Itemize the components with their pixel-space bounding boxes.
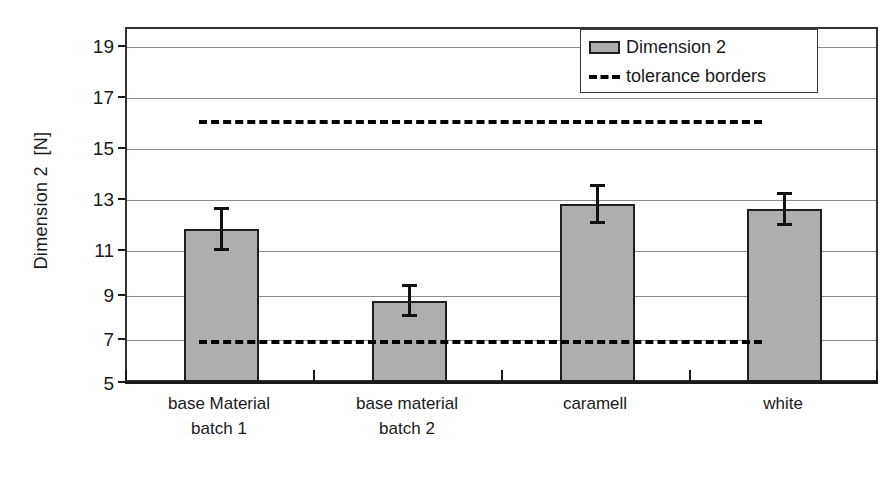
lower-tolerance-border-line bbox=[199, 340, 762, 344]
x-tick-1 bbox=[313, 370, 315, 384]
y-tick-label-13: 13 bbox=[54, 190, 114, 209]
x-category-line-2: batch 1 bbox=[125, 417, 313, 442]
y-axis-tick-labels: 19 17 15 13 11 9 7 5 bbox=[40, 0, 114, 479]
upper-tolerance-border-line bbox=[199, 120, 762, 124]
bar-white[interactable] bbox=[747, 209, 822, 382]
y-tick-label-17: 17 bbox=[54, 88, 114, 107]
legend-entry-tolerance-borders: tolerance borders bbox=[589, 62, 811, 91]
y-tick-label-15: 15 bbox=[54, 139, 114, 158]
y-tick-label-5: 5 bbox=[54, 374, 114, 393]
gridline-13 bbox=[127, 200, 876, 201]
bar-caramell[interactable] bbox=[560, 204, 635, 382]
x-category-label-base-material-batch-1: base Material batch 1 bbox=[125, 392, 313, 441]
x-category-line-2: batch 2 bbox=[313, 417, 501, 442]
x-category-line-1: white bbox=[689, 392, 877, 417]
y-tick-label-9: 9 bbox=[54, 286, 114, 305]
x-category-line-1: base material bbox=[313, 392, 501, 417]
x-category-label-base-material-batch-2: base material batch 2 bbox=[313, 392, 501, 441]
x-category-line-1: caramell bbox=[501, 392, 689, 417]
x-tick-start bbox=[125, 370, 127, 384]
x-category-line-1: base Material bbox=[125, 392, 313, 417]
x-tick-end bbox=[876, 370, 878, 384]
bar-chart-figure: Dimension 2 [N] 19 17 15 13 11 9 7 5 bbox=[0, 0, 890, 479]
y-tick-label-11: 11 bbox=[54, 241, 114, 260]
gridline-15 bbox=[127, 149, 876, 150]
y-tick-label-19: 19 bbox=[54, 37, 114, 56]
legend-entry-dimension-2: Dimension 2 bbox=[589, 33, 811, 62]
legend-entry-label: Dimension 2 bbox=[626, 37, 726, 58]
gridline-17 bbox=[127, 98, 876, 99]
legend: Dimension 2 tolerance borders bbox=[580, 29, 818, 93]
x-tick-2 bbox=[501, 370, 503, 384]
x-category-label-caramell: caramell bbox=[501, 392, 689, 417]
y-tick-label-7: 7 bbox=[54, 330, 114, 349]
bar-base-material-batch-1[interactable] bbox=[184, 229, 259, 382]
legend-entry-label: tolerance borders bbox=[626, 66, 766, 87]
legend-dashed-line-icon bbox=[589, 75, 620, 79]
legend-bar-swatch-icon bbox=[589, 41, 620, 54]
x-tick-3 bbox=[689, 370, 691, 384]
x-category-label-white: white bbox=[689, 392, 877, 417]
